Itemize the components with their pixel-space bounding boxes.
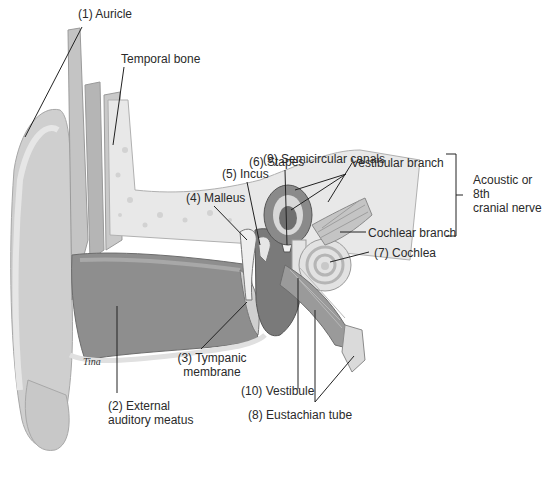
label-tympanic-line2: membrane (167, 365, 257, 379)
label-external-line2: auditory meatus (108, 413, 218, 427)
label-eustachian-tube: (8) Eustachian tube (248, 408, 352, 422)
label-acoustic-nerve-line3: cranial nerve (473, 201, 545, 215)
label-tympanic-membrane: (3) Tympanic membrane (167, 351, 257, 379)
label-external-line1: (2) External (108, 399, 218, 413)
label-acoustic-nerve-line1: Acoustic or (473, 173, 545, 187)
label-external-auditory-meatus: (2) External auditory meatus (108, 399, 218, 427)
label-malleus: (4) Malleus (186, 191, 245, 205)
label-tympanic-line1: (3) Tympanic (167, 351, 257, 365)
label-vestibule: (10) Vestibule (241, 384, 314, 398)
label-temporal-bone: Temporal bone (121, 52, 200, 66)
label-incus: (5) Incus (222, 167, 269, 181)
label-cochlear-branch: Cochlear branch (368, 226, 456, 240)
label-vestibular-branch: Vestibular branch (351, 156, 444, 170)
label-auricle: (1) Auricle (78, 7, 132, 21)
label-acoustic-nerve: Acoustic or 8th cranial nerve (473, 173, 545, 215)
illustrator-signature: Tina (83, 356, 101, 367)
label-acoustic-nerve-line2: 8th (473, 187, 545, 201)
label-cochlea: (7) Cochlea (374, 246, 436, 260)
